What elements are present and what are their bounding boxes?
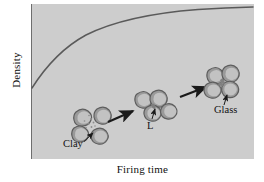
figure-densification-schematic: Density Firing time Clay L Glass: [0, 0, 264, 182]
cluster-glass: [204, 65, 239, 105]
annotation-label-glass: Glass: [214, 104, 237, 115]
figure-graphics: [0, 0, 264, 182]
arrow-l-to-glass: [180, 87, 206, 97]
annotation-label-liquid: L: [147, 120, 153, 131]
x-axis-label: Firing time: [31, 163, 254, 175]
annotation-label-clay: Clay: [63, 138, 83, 149]
y-axis-label: Density: [10, 39, 22, 101]
cluster-liquid: [135, 90, 177, 121]
